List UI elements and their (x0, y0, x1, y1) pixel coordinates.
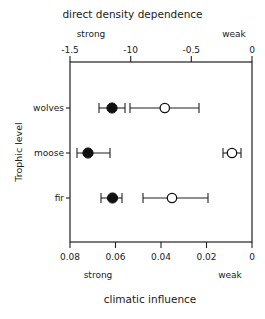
top-tick-label: -10 (123, 45, 138, 55)
data-row-wolves (99, 103, 199, 113)
top-axis-title: direct density dependence (62, 8, 202, 20)
data-point-open-circle (160, 103, 169, 112)
data-point-open-circle (167, 193, 176, 202)
top-tick-label: -0.5 (183, 45, 201, 55)
data-row-fir (101, 193, 208, 203)
bottom-tick-label: 0.06 (105, 252, 125, 262)
data-point-filled-circle (107, 193, 117, 203)
bottom-tick-label: 0 (249, 252, 255, 262)
category-label-wolves: wolves (33, 103, 64, 113)
chart-svg: direct density dependence strong weak -1… (0, 0, 265, 319)
category-label-fir: fir (55, 193, 65, 203)
bottom-tick-label: 0.02 (196, 252, 216, 262)
bottom-tick-label: 0.04 (151, 252, 171, 262)
plot-frame (70, 62, 252, 242)
data-point-filled-circle (83, 148, 93, 158)
data-point-filled-circle (107, 103, 117, 113)
top-axis-weak-label: weak (222, 29, 246, 39)
figure: direct density dependence strong weak -1… (0, 0, 265, 319)
top-tick-label: -1.5 (61, 45, 79, 55)
data-point-open-circle (227, 148, 236, 157)
bottom-axis-strong-label: strong (84, 270, 113, 280)
category-label-moose: moose (34, 148, 64, 158)
y-axis-label: Trophic level (13, 122, 24, 182)
top-axis-strong-label: strong (77, 29, 106, 39)
bottom-axis-title: climatic influence (104, 293, 197, 305)
top-tick-label: 0 (249, 45, 255, 55)
bottom-tick-label: 0.08 (60, 252, 80, 262)
data-row-moose (77, 148, 241, 158)
bottom-axis-weak-label: weak (218, 270, 242, 280)
